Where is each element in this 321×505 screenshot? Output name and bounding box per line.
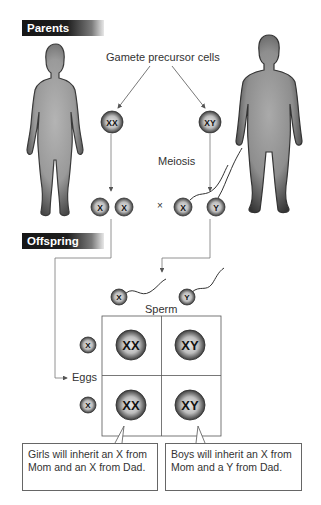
- svg-text:XX: XX: [122, 338, 140, 353]
- girls-callout-text: Girls will inherit an X from Mom and an …: [28, 448, 147, 473]
- parents-title: Parents: [27, 22, 69, 34]
- offspring-cell-r1c1: XX: [116, 330, 146, 360]
- mother-precursor-cell: XX: [101, 111, 123, 133]
- svg-text:XY: XY: [181, 338, 199, 353]
- sperm-tail-x: [190, 165, 228, 200]
- offspring-banner: Offspring: [22, 233, 104, 249]
- svg-text:X: X: [85, 341, 91, 350]
- arrow-to-xy: [172, 66, 205, 108]
- inheritance-diagram: XX XY X X X Y X Y: [0, 0, 321, 505]
- meiosis-label: Meiosis: [158, 155, 195, 167]
- svg-text:XX: XX: [106, 118, 118, 128]
- sperm-connector: [162, 219, 210, 272]
- svg-text:X: X: [85, 401, 91, 410]
- egg-x-1: X: [91, 198, 109, 216]
- sperm-x: X: [111, 289, 127, 305]
- offspring-cell-r2c1: XX: [116, 390, 146, 420]
- male-silhouette-icon: [236, 35, 302, 213]
- sperm-y: Y: [179, 289, 195, 305]
- svg-text:XY: XY: [204, 118, 216, 128]
- punnett-square: [102, 316, 221, 436]
- egg-allele-1: X: [80, 337, 96, 353]
- parents-banner: Parents: [22, 20, 104, 36]
- svg-text:X: X: [180, 203, 186, 213]
- svg-text:X: X: [121, 203, 127, 213]
- svg-text:XX: XX: [122, 398, 140, 413]
- offspring-title: Offspring: [27, 235, 79, 247]
- svg-text:Y: Y: [213, 203, 219, 213]
- sperm-y-parent: Y: [207, 198, 225, 216]
- arrow-to-xx: [118, 66, 150, 108]
- boys-callout-text: Boys will inherit an X from Mom and a Y …: [171, 448, 292, 473]
- gamete-precursor-label: Gamete precursor cells: [106, 51, 220, 63]
- boys-callout: Boys will inherit an X from Mom and a Y …: [165, 443, 302, 491]
- cross-symbol: ×: [157, 200, 163, 211]
- offspring-cell-r1c2: XY: [175, 330, 205, 360]
- svg-text:X: X: [116, 293, 122, 302]
- female-silhouette-icon: [27, 44, 83, 216]
- svg-text:XY: XY: [181, 398, 199, 413]
- sperm-x-parent: X: [174, 198, 192, 216]
- svg-text:X: X: [97, 203, 103, 213]
- girls-callout: Girls will inherit an X from Mom and an …: [22, 443, 158, 491]
- svg-text:Y: Y: [184, 293, 190, 302]
- egg-x-2: X: [115, 198, 133, 216]
- eggs-label: Eggs: [72, 371, 97, 383]
- sperm-tail-y-offspring: [192, 268, 224, 292]
- sperm-tail-y: [218, 148, 242, 198]
- offspring-cell-r2c2: XY: [175, 390, 205, 420]
- father-precursor-cell: XY: [199, 111, 221, 133]
- sperm-label: Sperm: [145, 303, 177, 315]
- egg-allele-2: X: [80, 397, 96, 413]
- sperm-tail-x-offspring: [126, 279, 166, 294]
